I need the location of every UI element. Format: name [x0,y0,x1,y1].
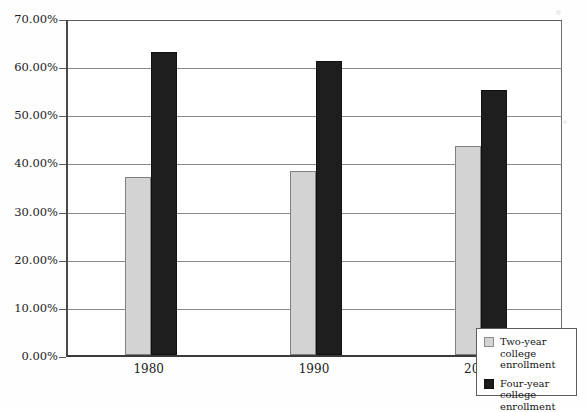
x-axis-tick-label: 1980 [133,362,164,376]
y-axis-tick-label: 60.00% [0,62,58,74]
y-axis-tick-label: 40.00% [0,159,58,171]
bar-four-year-2000 [481,90,507,355]
bar-four-year-1990 [316,61,342,355]
y-axis-tick-mark [59,309,66,310]
y-axis-tick-mark [59,68,66,69]
y-axis-tick-mark [59,164,66,165]
plot-area [66,20,562,357]
legend-item: Four-year college enrollment [484,378,576,412]
plot-right-edge [561,20,562,355]
y-axis-tick-mark [59,116,66,117]
y-axis-tick-label: 10.00% [0,303,58,315]
legend-label: Two-year college enrollment [500,336,576,371]
y-axis-tick-label: 50.00% [0,111,58,123]
legend-swatch-two-year-icon [484,337,494,347]
y-axis-tick-label: 70.00% [0,14,58,26]
y-axis-tick-label: 30.00% [0,207,58,219]
bar-two-year-1980 [125,177,151,355]
legend-label: Four-year college enrollment [500,378,576,412]
bar-two-year-2000 [455,146,481,355]
bar-two-year-1990 [290,171,316,355]
legend-swatch-four-year-icon [484,379,494,389]
y-axis-tick-mark [59,357,66,358]
gridline [68,68,562,69]
bar-four-year-1980 [151,52,177,355]
scan-artifact [556,10,561,15]
gridline [68,20,562,21]
legend-item: Two-year college enrollment [484,336,576,371]
y-axis-tick-mark [59,213,66,214]
y-axis-tick-mark [59,261,66,262]
y-axis-tick-label: 20.00% [0,255,58,267]
scan-artifact [563,120,567,124]
chart-legend: Two-year college enrollment Four-year co… [476,328,577,396]
x-axis-tick-label: 1990 [299,362,330,376]
y-axis-tick-mark [59,20,66,21]
y-axis-tick-label: 0.00% [0,351,58,363]
